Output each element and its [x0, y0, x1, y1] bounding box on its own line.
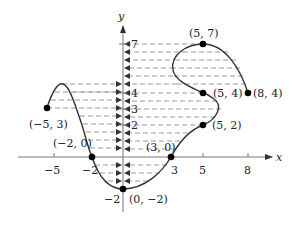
point-marker	[44, 105, 51, 112]
dashed-projection-lines-right	[126, 44, 246, 181]
point-label: (−5, 3)	[29, 118, 68, 131]
point-label: (5, 4)	[213, 87, 243, 100]
graph-canvas: x y −5 −2 3 5 8 7 4 3 2 −2 (−5, 3) (−2, …	[0, 0, 295, 225]
x-tick-label: 5	[199, 164, 206, 177]
y-tick-label: 2	[131, 119, 138, 132]
point-label: (5, 2)	[212, 119, 242, 132]
point-label: (−2, 0)	[53, 137, 92, 150]
point-label: (0, −2)	[129, 193, 168, 206]
point-marker	[89, 154, 96, 161]
y-tick-label: −2	[104, 193, 120, 206]
point-marker	[200, 122, 207, 129]
point-label: (5, 7)	[189, 27, 219, 40]
x-axis-label: x	[276, 151, 283, 164]
x-tick-label: −5	[44, 164, 60, 177]
y-tick-label: 4	[131, 87, 138, 100]
point-marker	[200, 41, 207, 48]
x-tick-label: 8	[244, 164, 251, 177]
y-tick-label: 3	[131, 103, 138, 116]
point-marker	[168, 154, 175, 161]
y-tick-label: 7	[131, 38, 138, 51]
point-marker	[120, 186, 127, 193]
point-label: (8, 4)	[253, 87, 283, 100]
point-marker	[245, 90, 252, 97]
point-label: (3, 0)	[146, 141, 176, 154]
point-marker	[200, 90, 207, 97]
arrowheads-from-right	[124, 41, 130, 184]
y-axis-label: y	[117, 10, 125, 23]
arrowheads-from-left	[116, 81, 122, 184]
x-tick-label: 3	[171, 164, 178, 177]
